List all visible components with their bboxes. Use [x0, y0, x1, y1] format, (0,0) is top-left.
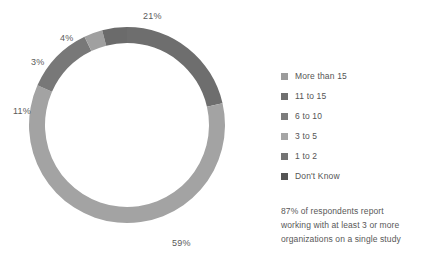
slice-label-11-to-15: 59% [172, 238, 191, 248]
legend-item-11-to-15[interactable]: 11 to 15 [281, 86, 417, 106]
legend-swatch-icon [281, 133, 288, 140]
caption-line-1: 87% of respondents report [281, 204, 421, 218]
slice-label-more-than-15: 21% [143, 11, 162, 21]
legend-item-1-to-2[interactable]: 1 to 2 [281, 146, 417, 166]
legend-item-label: 3 to 5 [295, 131, 317, 141]
donut-slice[interactable] [127, 27, 223, 107]
donut-slice[interactable] [102, 27, 127, 46]
legend-swatch-icon [281, 93, 288, 100]
legend-swatch-icon [281, 153, 288, 160]
legend-swatch-icon [281, 73, 288, 80]
legend-swatch-icon [281, 113, 288, 120]
donut-slice[interactable] [37, 37, 91, 92]
caption-line-2: working with at least 3 or more [281, 218, 421, 232]
donut-slice-group [29, 27, 225, 223]
legend-item-label: 6 to 10 [295, 111, 322, 121]
donut-slice[interactable] [29, 85, 225, 223]
legend-item-dont-know[interactable]: Don't Know [281, 166, 417, 186]
slice-label-3-to-5: 3% [31, 57, 44, 67]
legend-swatch-icon [281, 173, 288, 180]
slice-label-6-to-10: 11% [13, 106, 31, 116]
donut-chart-area: 21% 59% 11% 3% 4% [0, 0, 256, 262]
legend-item-label: 11 to 15 [295, 91, 326, 101]
chart-caption: 87% of respondents report working with a… [281, 204, 421, 246]
legend-item-label: 1 to 2 [295, 151, 317, 161]
legend-item-label: Don't Know [295, 171, 340, 181]
donut-chart-svg [0, 0, 256, 262]
legend-item-3-to-5[interactable]: 3 to 5 [281, 126, 417, 146]
chart-legend: More than 15 11 to 15 6 to 10 3 to 5 1 t… [281, 66, 417, 186]
donut-chart-figure: 21% 59% 11% 3% 4% More than 15 11 to 15 … [0, 0, 424, 262]
slice-label-1-to-2: 4% [60, 33, 73, 43]
caption-line-3: organizations on a single study [281, 232, 421, 246]
legend-item-more-than-15[interactable]: More than 15 [281, 66, 417, 86]
legend-item-6-to-10[interactable]: 6 to 10 [281, 106, 417, 126]
legend-item-label: More than 15 [295, 71, 347, 81]
